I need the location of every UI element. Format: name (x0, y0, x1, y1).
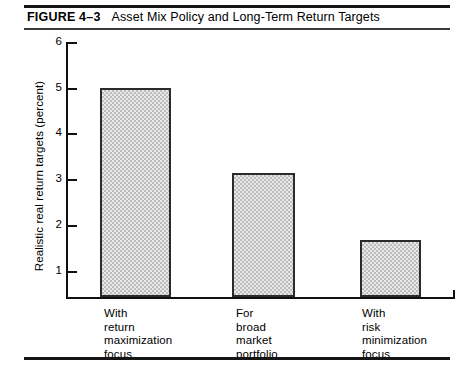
y-tick-label-1: 1 (42, 264, 62, 276)
y-axis-line (66, 42, 68, 299)
y-tick-mark-5 (68, 88, 77, 90)
x-axis-endcap (453, 290, 455, 299)
figure-number: FIGURE 4–3 (27, 10, 101, 24)
y-tick-label-4: 4 (42, 126, 62, 138)
figure-caption: FIGURE 4–3Asset Mix Policy and Long-Term… (27, 9, 380, 26)
category-label-0: With return maximization focus (104, 307, 172, 361)
y-tick-label-5: 5 (42, 81, 62, 93)
bar-broad-market (232, 173, 295, 297)
footer-rule (24, 357, 450, 360)
chart-plot-area: Realistic real return targets (percent) … (0, 30, 474, 357)
y-tick-mark-6 (68, 42, 77, 44)
y-tick-mark-3 (68, 179, 77, 181)
bar-risk-minimization (360, 240, 421, 297)
figure-container: FIGURE 4–3Asset Mix Policy and Long-Term… (0, 0, 474, 376)
y-tick-mark-2 (68, 225, 77, 227)
y-tick-label-3: 3 (42, 172, 62, 184)
y-tick-label-6: 6 (42, 35, 62, 47)
header-rule-top (24, 5, 450, 8)
bar-return-maximization (100, 88, 171, 297)
category-label-1: For broad market portfolio (236, 307, 278, 361)
figure-title: Asset Mix Policy and Long-Term Return Ta… (112, 10, 380, 24)
category-label-2: With risk minimization focus (362, 307, 427, 361)
y-tick-mark-4 (68, 133, 77, 135)
y-tick-label-2: 2 (42, 218, 62, 230)
x-axis-line (66, 297, 455, 299)
y-tick-mark-1 (68, 271, 77, 273)
